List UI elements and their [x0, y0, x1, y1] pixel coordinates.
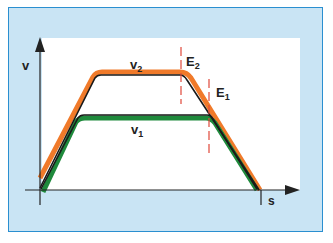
y-axis-label: v	[22, 58, 30, 73]
velocity-distance-diagram: v s v2 v1 E2 E1	[0, 0, 333, 243]
x-axis-label: s	[268, 194, 275, 208]
plot-area	[42, 38, 300, 190]
